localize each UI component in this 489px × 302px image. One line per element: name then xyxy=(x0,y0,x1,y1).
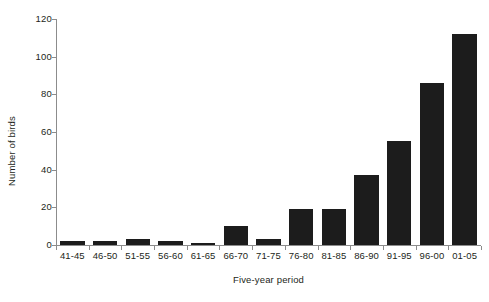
y-axis-tick-label: 40 xyxy=(24,165,52,175)
x-axis-tick-label: 66-70 xyxy=(219,250,252,262)
bar xyxy=(322,209,346,245)
y-axis-tick-label: 100 xyxy=(24,52,52,62)
bar xyxy=(289,209,313,245)
x-axis-tick-label: 71-75 xyxy=(252,250,285,262)
x-axis-tick-label: 86-90 xyxy=(350,250,383,262)
bar xyxy=(224,226,248,245)
x-axis-tick-label: 81-85 xyxy=(318,250,351,262)
x-axis-tick-label: 41-45 xyxy=(56,250,89,262)
y-axis-tick-label: 120 xyxy=(24,14,52,24)
y-axis-tick-label: 80 xyxy=(24,89,52,99)
x-axis-tick-label: 96-00 xyxy=(416,250,449,262)
x-axis-tick-label: 56-60 xyxy=(154,250,187,262)
y-axis-tick-label: 0 xyxy=(24,240,52,250)
x-axis-tick-label: 01-05 xyxy=(448,250,481,262)
y-axis-tick-label: 60 xyxy=(24,127,52,137)
x-axis-tick-label: 91-95 xyxy=(383,250,416,262)
x-axis-tick-mark xyxy=(481,246,482,250)
plot-area xyxy=(56,19,481,245)
bar xyxy=(420,83,444,245)
x-axis-title: Five-year period xyxy=(56,274,481,285)
x-axis-tick-label: 51-55 xyxy=(121,250,154,262)
bar xyxy=(158,241,182,245)
x-axis-tick-label: 76-80 xyxy=(285,250,318,262)
x-axis-tick-labels: 41-4546-5051-5556-6061-6566-7071-7576-80… xyxy=(56,250,481,264)
bar xyxy=(452,34,476,245)
bar xyxy=(126,239,150,245)
bar xyxy=(191,243,215,245)
y-axis-tick-labels: 020406080100120 xyxy=(24,0,52,302)
y-axis-tick-label: 20 xyxy=(24,202,52,212)
bar xyxy=(256,239,280,245)
bars-layer xyxy=(56,19,481,245)
x-axis-line xyxy=(56,245,481,246)
x-axis-tick-label: 46-50 xyxy=(89,250,122,262)
bar-chart-figure: Number of birds 020406080100120 41-4546-… xyxy=(0,0,489,302)
x-axis-tick-label: 61-65 xyxy=(187,250,220,262)
bar xyxy=(60,241,84,245)
bar xyxy=(354,175,378,245)
bar xyxy=(387,141,411,245)
y-axis-title: Number of birds xyxy=(0,0,22,302)
bar xyxy=(93,241,117,245)
